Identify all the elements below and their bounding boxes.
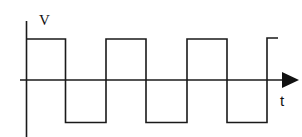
x-axis-label: t <box>280 92 285 109</box>
square-wave-diagram: V t <box>0 0 302 137</box>
x-axis-arrow-icon <box>282 72 299 88</box>
y-axis-label: V <box>39 12 50 28</box>
